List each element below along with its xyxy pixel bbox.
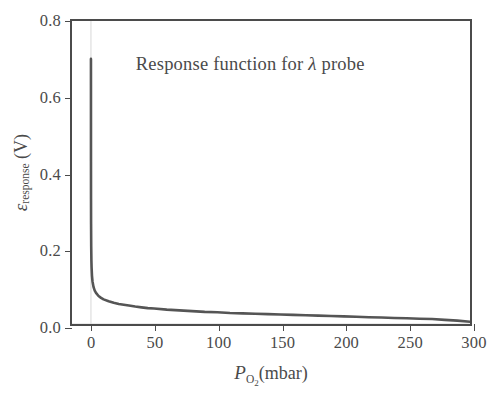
y-tick-mark (65, 21, 72, 22)
x-axis-label-symbol: P (234, 362, 246, 383)
x-tick-mark (219, 324, 220, 331)
x-tick-mark (91, 324, 92, 331)
y-tick-mark (65, 251, 72, 252)
x-tick-label: 250 (398, 333, 423, 353)
y-axis-label-unit: (V) (11, 134, 32, 159)
chart-title-annotation: Response function for λ probe (136, 53, 365, 75)
annotation-text-part1: Response function for (136, 54, 308, 74)
y-tick-label: 0.0 (40, 318, 61, 338)
y-tick-mark (65, 175, 72, 176)
x-tick-mark (155, 324, 156, 331)
plot-area: 0.00.20.40.60.8 050100150200250300 Respo… (70, 19, 472, 326)
x-tick-label: 50 (146, 333, 163, 353)
y-axis-label: εresponse (V) (6, 19, 36, 326)
y-tick-mark (65, 328, 72, 329)
y-tick-label: 0.2 (40, 241, 61, 261)
y-axis-label-subscript: response (19, 163, 31, 203)
x-tick-label: 200 (334, 333, 359, 353)
annotation-text-part2: probe (317, 54, 365, 74)
x-tick-label: 0 (87, 333, 95, 353)
lambda-symbol: λ (308, 53, 316, 74)
x-tick-mark (346, 324, 347, 331)
y-axis-label-symbol: ε (10, 204, 32, 212)
x-tick-label: 100 (206, 333, 231, 353)
y-tick-label: 0.4 (40, 165, 61, 185)
y-tick-label: 0.6 (40, 88, 61, 108)
y-tick-label: 0.8 (40, 11, 61, 31)
x-axis-label-subscript: O2 (246, 373, 259, 385)
data-line-series-0 (91, 59, 470, 322)
x-tick-label: 150 (270, 333, 295, 353)
x-axis-label-unit: (mbar) (259, 363, 308, 383)
data-series-group (91, 59, 470, 322)
x-tick-mark (410, 324, 411, 331)
y-tick-mark (65, 98, 72, 99)
x-tick-mark (474, 324, 475, 331)
x-tick-label: 300 (461, 333, 486, 353)
x-axis-label: PO2(mbar) (70, 362, 472, 384)
figure-container: εresponse (V) PO2(mbar) 0.00.20.40.60.8 … (0, 0, 502, 401)
x-tick-mark (283, 324, 284, 331)
